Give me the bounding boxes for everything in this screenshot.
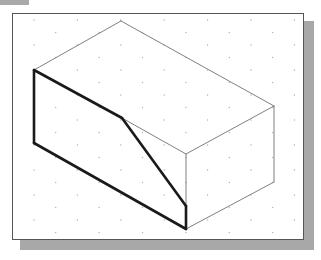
- grid-dot: [250, 94, 251, 95]
- grid-dot: [33, 219, 34, 220]
- grid-dot: [164, 94, 165, 95]
- grid-dot: [272, 157, 273, 158]
- grid-dot: [229, 57, 230, 58]
- edge-line: [186, 106, 274, 154]
- grid-dot: [120, 69, 121, 70]
- edge-line: [34, 143, 186, 229]
- grid-dot: [294, 69, 295, 70]
- grid-dot: [33, 44, 34, 45]
- edge-line: [122, 118, 186, 154]
- grid-dot: [142, 182, 143, 183]
- grid-dot: [98, 57, 99, 58]
- grid-dot: [120, 194, 121, 195]
- edge-line: [121, 21, 274, 106]
- grid-dot: [294, 144, 295, 145]
- grid-dot: [207, 194, 208, 195]
- grid-dot: [207, 169, 208, 170]
- grid-dot: [207, 44, 208, 45]
- grid-dot: [185, 32, 186, 33]
- grid-dot: [272, 207, 273, 208]
- grid-dot: [55, 182, 56, 183]
- grid-dot: [229, 107, 230, 108]
- grid-dot: [207, 144, 208, 145]
- grid-dot: [120, 169, 121, 170]
- grid-dot: [250, 44, 251, 45]
- grid-dot: [272, 232, 273, 233]
- grid-dot: [185, 232, 186, 233]
- grid-dot: [142, 132, 143, 133]
- grid-dot: [120, 19, 121, 20]
- grid-dot: [55, 107, 56, 108]
- grid-dot: [33, 19, 34, 20]
- grid-dot: [142, 82, 143, 83]
- grid-dot: [272, 132, 273, 133]
- grid-dot: [142, 157, 143, 158]
- grid-dot: [77, 194, 78, 195]
- grid-dot: [207, 119, 208, 120]
- grid-dot: [55, 32, 56, 33]
- grid-dot: [250, 144, 251, 145]
- grid-dot: [250, 69, 251, 70]
- thin-edges: [34, 21, 274, 229]
- edge-line: [34, 70, 122, 118]
- grid-dot: [229, 182, 230, 183]
- grid-dot: [294, 94, 295, 95]
- edge-line: [34, 21, 121, 70]
- grid-dot: [77, 219, 78, 220]
- grid-dot: [120, 219, 121, 220]
- grid-dot: [250, 19, 251, 20]
- grid-dot: [164, 69, 165, 70]
- grid-dot: [207, 219, 208, 220]
- grid-dot: [77, 19, 78, 20]
- grid-dot: [185, 107, 186, 108]
- grid-dot: [142, 107, 143, 108]
- grid-dot: [164, 194, 165, 195]
- grid-dot: [98, 232, 99, 233]
- edge-line: [186, 182, 274, 229]
- grid-dot: [55, 232, 56, 233]
- grid-dot: [142, 232, 143, 233]
- grid-dot: [164, 219, 165, 220]
- grid-dot: [164, 169, 165, 170]
- grid-dot: [272, 57, 273, 58]
- grid-dot: [120, 94, 121, 95]
- grid-dot: [294, 194, 295, 195]
- dot-grid: [33, 19, 295, 233]
- grid-dot: [229, 207, 230, 208]
- grid-dot: [98, 157, 99, 158]
- grid-dot: [120, 44, 121, 45]
- grid-dot: [55, 207, 56, 208]
- edge-line: [122, 118, 186, 206]
- grid-dot: [185, 82, 186, 83]
- grid-dot: [229, 32, 230, 33]
- grid-dot: [164, 119, 165, 120]
- grid-dot: [294, 44, 295, 45]
- grid-dot: [77, 69, 78, 70]
- grid-dot: [142, 57, 143, 58]
- grid-dot: [294, 219, 295, 220]
- grid-dot: [250, 169, 251, 170]
- grid-dot: [164, 144, 165, 145]
- grid-dot: [250, 119, 251, 120]
- grid-dot: [294, 169, 295, 170]
- grid-dot: [294, 19, 295, 20]
- grid-dot: [250, 219, 251, 220]
- grid-dot: [77, 169, 78, 170]
- grid-dot: [164, 19, 165, 20]
- grid-dot: [229, 157, 230, 158]
- grid-dot: [98, 182, 99, 183]
- isometric-drawing: [0, 0, 321, 260]
- grid-dot: [98, 132, 99, 133]
- grid-dot: [120, 144, 121, 145]
- grid-dot: [33, 194, 34, 195]
- grid-dot: [77, 144, 78, 145]
- grid-dot: [185, 132, 186, 133]
- grid-dot: [142, 207, 143, 208]
- grid-dot: [98, 82, 99, 83]
- grid-dot: [229, 232, 230, 233]
- thick-edges: [34, 70, 186, 229]
- grid-dot: [77, 119, 78, 120]
- grid-dot: [207, 19, 208, 20]
- grid-dot: [55, 132, 56, 133]
- grid-dot: [98, 207, 99, 208]
